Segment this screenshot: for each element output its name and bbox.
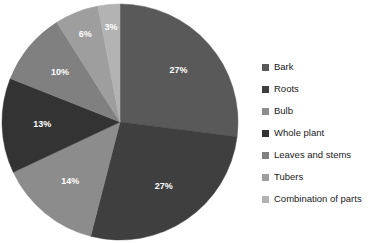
legend-swatch-icon — [262, 174, 269, 181]
legend-item[interactable]: Leaves and stems — [262, 144, 368, 166]
pie-slice-label: 27% — [155, 181, 173, 191]
pie-slice-label: 13% — [33, 119, 51, 129]
legend-swatch-icon — [262, 86, 269, 93]
pie-slice-label: 27% — [169, 65, 187, 75]
pie-plot-area: 27%27%14%13%10%6%3% — [0, 0, 250, 243]
legend-item[interactable]: Roots — [262, 78, 368, 100]
pie-chart-figure: 27%27%14%13%10%6%3% BarkRootsBulbWhole p… — [0, 0, 370, 243]
legend-item-label: Bulb — [274, 106, 293, 116]
legend-item-label: Leaves and stems — [274, 150, 351, 160]
pie-slice-label: 3% — [105, 22, 118, 32]
legend-item[interactable]: Bulb — [262, 100, 368, 122]
legend-item[interactable]: Tubers — [262, 166, 368, 188]
legend-item-label: Tubers — [274, 172, 303, 182]
legend-item-label: Combination of parts — [274, 194, 362, 204]
legend-swatch-icon — [262, 196, 269, 203]
legend-item[interactable]: Whole plant — [262, 122, 368, 144]
legend-item[interactable]: Combination of parts — [262, 188, 368, 210]
pie-slice-label: 6% — [79, 29, 92, 39]
pie-slice-label: 10% — [51, 67, 69, 77]
legend-swatch-icon — [262, 108, 269, 115]
legend-item-label: Bark — [274, 62, 294, 72]
legend-item-label: Roots — [274, 84, 299, 94]
legend-swatch-icon — [262, 64, 269, 71]
legend-item-label: Whole plant — [274, 128, 324, 138]
legend-swatch-icon — [262, 152, 269, 159]
pie-svg: 27%27%14%13%10%6%3% — [0, 0, 250, 243]
legend-item[interactable]: Bark — [262, 56, 368, 78]
pie-slice-label: 14% — [61, 176, 79, 186]
legend-swatch-icon — [262, 130, 269, 137]
chart-legend: BarkRootsBulbWhole plantLeaves and stems… — [262, 56, 368, 210]
